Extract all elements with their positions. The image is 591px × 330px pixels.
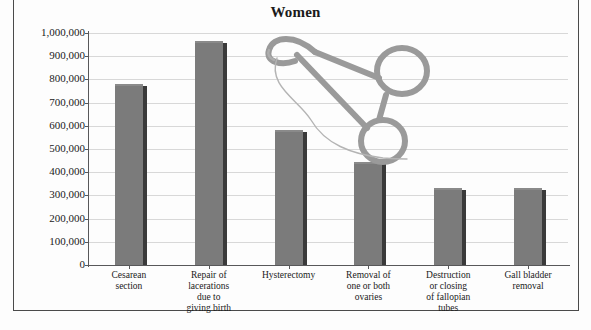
- bar-top-highlight: [275, 130, 303, 132]
- bar-shadow-edge: [223, 43, 227, 265]
- x-axis-category-label-line: lacerations: [168, 281, 250, 292]
- x-axis-category-label-line: or closing: [407, 281, 489, 292]
- y-axis-tick-label: 900,000: [3, 50, 85, 61]
- x-axis-category-label-line: removal: [487, 281, 569, 292]
- x-axis-category-label-line: one or both: [327, 281, 409, 292]
- x-axis-tick-mark: [528, 265, 529, 269]
- y-axis-tick-label: 300,000: [3, 189, 85, 200]
- bar-shadow-edge: [143, 86, 147, 265]
- bar-top-highlight: [434, 188, 462, 190]
- x-axis-category-label-line: Cesarean: [88, 270, 170, 281]
- y-axis-tick-label: 600,000: [3, 120, 85, 131]
- y-axis-tick-label: 1,000,000: [3, 27, 85, 38]
- x-axis-category-label: Gall bladderremoval: [487, 270, 569, 292]
- bar[interactable]: [115, 84, 143, 265]
- chart-title: Women: [0, 4, 591, 21]
- bar-top-highlight: [354, 162, 382, 164]
- gridline: [89, 33, 568, 34]
- bar-shadow-edge: [382, 164, 386, 265]
- x-axis-tick-mark: [289, 265, 290, 269]
- gridline: [89, 149, 568, 150]
- x-axis-category-label-line: Gall bladder: [487, 270, 569, 281]
- bar[interactable]: [275, 130, 303, 265]
- x-axis-category-label-line: ovaries: [327, 292, 409, 303]
- x-axis-category-label: Hysterectomy: [248, 270, 330, 281]
- x-axis-category-label: Repair oflacerationsdue togiving birth: [168, 270, 250, 314]
- gridline: [89, 126, 568, 127]
- y-axis-tick-label: 800,000: [3, 73, 85, 84]
- x-axis-category-label-line: giving birth: [168, 303, 250, 314]
- x-axis-category-label: Cesareansection: [88, 270, 170, 292]
- y-axis-tick-label: 400,000: [3, 166, 85, 177]
- y-axis-tick-label: 700,000: [3, 97, 85, 108]
- bar[interactable]: [434, 188, 462, 265]
- gridline: [89, 79, 568, 80]
- bar-top-highlight: [514, 188, 542, 190]
- x-axis-line: [88, 265, 570, 266]
- x-axis-category-label-line: tubes: [407, 303, 489, 314]
- x-axis-category-label-line: Hysterectomy: [248, 270, 330, 281]
- bar-shadow-edge: [542, 190, 546, 265]
- bar[interactable]: [354, 162, 382, 265]
- x-axis-category-label: Removal ofone or bothovaries: [327, 270, 409, 303]
- plot-area: [89, 33, 568, 265]
- frame-border-bottom: [13, 310, 579, 311]
- y-axis-labels: 1,000,000900,000800,000700,000600,000500…: [0, 0, 85, 330]
- x-axis-category-label-line: Removal of: [327, 270, 409, 281]
- x-axis-category-label: Destructionor closingof fallopiantubes: [407, 270, 489, 314]
- gridline: [89, 56, 568, 57]
- gridline: [89, 172, 568, 173]
- bar[interactable]: [514, 188, 542, 265]
- gridline: [89, 195, 568, 196]
- bar-shadow-edge: [462, 190, 466, 265]
- y-axis-tick-label: 0: [3, 259, 85, 270]
- x-axis-category-label-line: Destruction: [407, 270, 489, 281]
- x-axis-category-label-line: of fallopian: [407, 292, 489, 303]
- x-axis-tick-mark: [448, 265, 449, 269]
- gridline: [89, 103, 568, 104]
- bar-shadow-edge: [303, 132, 307, 265]
- bar-top-highlight: [195, 41, 223, 43]
- x-axis-category-label-line: Repair of: [168, 270, 250, 281]
- bar-top-highlight: [115, 84, 143, 86]
- bar[interactable]: [195, 41, 223, 265]
- y-axis-tick-label: 500,000: [3, 143, 85, 154]
- gridline: [89, 242, 568, 243]
- x-axis-category-label-line: section: [88, 281, 170, 292]
- gridline: [89, 219, 568, 220]
- y-axis-tick-label: 200,000: [3, 213, 85, 224]
- chart-frame: Women 1,000,000900,000800,000700,000600,…: [0, 0, 591, 330]
- x-axis-tick-mark: [368, 265, 369, 269]
- y-axis-tick-label: 100,000: [3, 236, 85, 247]
- x-axis-category-label-line: due to: [168, 292, 250, 303]
- x-axis-tick-mark: [209, 265, 210, 269]
- frame-border-right: [578, 0, 579, 311]
- x-axis-tick-mark: [129, 265, 130, 269]
